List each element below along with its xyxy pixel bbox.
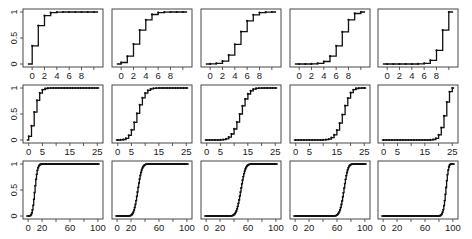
y-tick-label: 0 [9,61,19,66]
x-tick-label: 25 [92,146,103,157]
cdf-point [228,54,230,56]
cdf-point [236,208,238,210]
cdf-point [298,63,300,65]
cdf-point [407,139,409,141]
cdf-point [452,163,454,165]
cdf-point [260,87,262,89]
cdf-point [308,139,310,141]
cdf-point [50,87,52,89]
cdf-point [145,19,147,21]
cdf-point [136,112,138,114]
cdf-point [80,11,82,13]
x-tick-label: 6 [245,70,250,81]
x-tick-label: 0 [385,70,390,81]
cdf-step-line [204,164,278,216]
cdf-point [441,213,443,215]
cdf-point [236,121,238,123]
cdf-point [211,139,213,141]
cdf-point [249,90,251,92]
cdf-point [233,128,235,130]
cdf-point [144,92,146,94]
cdf-point [69,87,71,89]
x-tick-label: 0 [25,222,30,233]
cdf-point [219,139,221,141]
cdf-point [355,87,357,89]
cdf-point [314,139,316,141]
cdf-point [392,63,394,65]
cdf-point [58,87,60,89]
cdf-point [329,55,331,57]
cdf-point [182,11,184,13]
cdf-point [77,87,79,89]
x-tick-label: 0 [293,146,298,157]
cdf-point [91,87,93,89]
x-tick-label: 0 [204,146,209,157]
cdf-point [215,62,217,64]
cdf-point [238,199,240,201]
cdf-point [244,168,246,170]
x-tick-label: 20 [304,222,315,233]
x-tick-label: 4 [232,70,237,81]
cdf-point [130,129,132,131]
x-tick-label: 0 [114,222,119,233]
x-tick-label: 8 [168,70,173,81]
cdf-point [242,176,244,178]
panel-r1-c4: 051525 [378,85,458,157]
cdf-point [341,31,343,33]
cdf-point [96,87,98,89]
cdf-point [157,11,159,13]
cdf-point [444,200,446,202]
cdf-point [405,63,407,65]
cdf-point [402,139,404,141]
cdf-point [328,138,330,140]
cdf-point [141,169,143,171]
y-tick-label: 0.5 [9,32,19,45]
cdf-point [217,139,219,141]
cdf-point [163,87,165,89]
cdf-point [271,87,273,89]
cdf-point [50,12,52,14]
x-tick-label: 2 [309,70,314,81]
cdf-point [139,104,141,106]
cdf-point [221,60,223,62]
cdf-point [341,114,343,116]
cdf-point [176,11,178,13]
cdf-point [263,87,265,89]
x-tick-label: 20 [392,222,403,233]
y-tick-label: 0.5 [9,108,19,121]
cdf-point [138,182,140,184]
panel-r2-c1: 02060100 [112,161,195,233]
x-tick-label: 100 [268,222,284,233]
cdf-point [134,203,136,205]
cdf-point [304,63,306,65]
cdf-point [133,121,135,123]
cdf-point [171,87,173,89]
cdf-point [342,196,344,198]
cdf-step-line [381,164,455,216]
plot-frame [378,9,458,67]
x-tick-label: 60 [154,222,165,233]
cdf-point [237,203,239,205]
y-tick-label: 0 [9,137,19,142]
cdf-point [139,175,141,177]
y-tick-label: 0.5 [9,184,19,197]
cdf-point [252,88,254,90]
cdf-point [360,87,362,89]
cdf-point [32,204,34,206]
x-tick-label: 60 [65,222,76,233]
x-tick-label: 4 [321,70,326,81]
x-tick-label: 60 [243,222,254,233]
cdf-point [155,87,157,89]
cdf-point [140,172,142,174]
cdf-point [274,87,276,89]
cdf-point [258,87,260,89]
x-tick-label: 0 [115,146,120,157]
x-tick-label: 60 [332,222,343,233]
cdf-point [239,113,241,115]
x-tick-label: 0 [208,70,213,81]
x-tick-label: 100 [357,222,373,233]
cdf-point [343,187,345,189]
cdf-point [174,87,176,89]
cdf-point [340,207,342,209]
cdf-point [85,87,87,89]
